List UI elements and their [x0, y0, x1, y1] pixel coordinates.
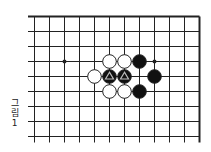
- black-stone-icon: [133, 85, 147, 99]
- go-board: [0, 0, 211, 152]
- caption-char-3: 1: [8, 118, 21, 128]
- black-stone-icon: [148, 70, 162, 84]
- caption-char-2: 림: [8, 108, 21, 118]
- white-stone-icon: [103, 55, 117, 69]
- white-stone-icon: [118, 85, 132, 99]
- star-point-icon: [153, 60, 157, 64]
- white-stone-icon: [118, 55, 132, 69]
- white-stone-icon: [103, 85, 117, 99]
- caption-char-1: 그: [8, 98, 21, 108]
- white-stone-icon: [88, 70, 102, 84]
- figure-caption: 그 림 1: [8, 98, 21, 128]
- black-stone-icon: [133, 55, 147, 69]
- star-point-icon: [63, 60, 67, 64]
